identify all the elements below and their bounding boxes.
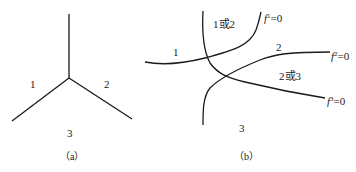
figure-a: 1 2 3 （a） bbox=[12, 14, 132, 162]
curve-label-f1: f1=0 bbox=[264, 12, 283, 24]
region-label-1: 1 bbox=[173, 46, 179, 58]
curve-f2 bbox=[203, 52, 330, 125]
region-label-2: 2 bbox=[104, 78, 110, 90]
figure-b: 1 1或2 2 2或3 3 f1=0 f2=0 f3=0 （b） bbox=[145, 11, 350, 162]
curve-label-f3: f3=0 bbox=[327, 95, 346, 107]
region-label-2-or-3: 2或3 bbox=[279, 70, 302, 82]
diagram-canvas: 1 2 3 （a） 1 1或2 2 2或3 3 f1=0 f2=0 f3=0 （… bbox=[0, 0, 356, 172]
caption-a: （a） bbox=[60, 151, 84, 162]
region-label-2: 2 bbox=[276, 41, 282, 53]
boundary-right bbox=[69, 78, 132, 119]
curve-label-f2: f2=0 bbox=[331, 50, 350, 62]
region-label-1: 1 bbox=[30, 78, 36, 90]
caption-b: （b） bbox=[234, 151, 259, 162]
boundary-left bbox=[12, 78, 69, 121]
region-label-3: 3 bbox=[239, 122, 245, 134]
region-label-1-or-2: 1或2 bbox=[213, 18, 235, 30]
region-label-3: 3 bbox=[67, 127, 73, 139]
